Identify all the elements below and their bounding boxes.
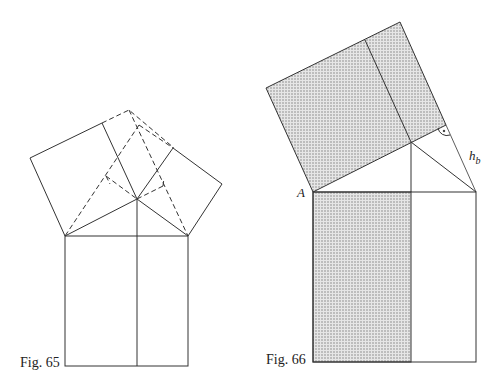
height-subscript: b (476, 155, 481, 166)
fig65-drawing (30, 110, 222, 366)
fig65-dashed-construction (65, 110, 188, 236)
fig65-left-leg-square (30, 123, 137, 236)
fig66-shaded-rectangle (313, 192, 411, 362)
fig65-right-leg-square (137, 148, 222, 236)
fig66-caption: Fig. 66 (266, 352, 306, 368)
vertex-a-label: A (297, 185, 305, 201)
fig65-hypotenuse-square (65, 236, 188, 366)
fig66-shaded-leg-square (266, 22, 446, 192)
fig65-caption: Fig. 65 (20, 355, 60, 371)
diagram-canvas (0, 0, 501, 382)
height-label: hb (469, 148, 481, 166)
